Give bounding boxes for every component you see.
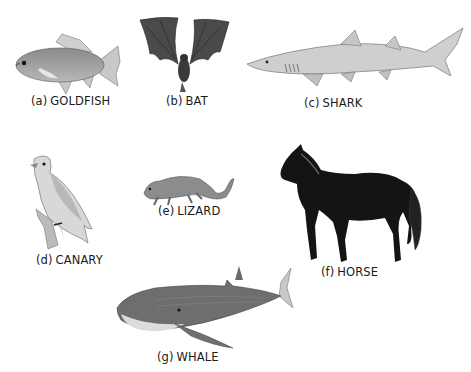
panel-lizard: (e)LIZARD bbox=[140, 165, 240, 225]
label-lizard: (e)LIZARD bbox=[158, 204, 220, 218]
label-goldfish: (a)GOLDFISH bbox=[31, 94, 110, 108]
panel-bat: (b)BAT bbox=[130, 0, 240, 110]
panel-whale: (g)WHALE bbox=[115, 250, 295, 365]
panel-canary: (d)CANARY bbox=[0, 145, 110, 260]
panel-shark: (c)SHARK bbox=[245, 0, 471, 115]
label-canary: (d)CANARY bbox=[36, 253, 103, 267]
canary-icon bbox=[0, 145, 110, 260]
whale-icon bbox=[115, 250, 295, 365]
horse-icon bbox=[275, 140, 455, 285]
label-shark: (c)SHARK bbox=[304, 96, 362, 110]
label-horse: (f)HORSE bbox=[321, 265, 378, 279]
panel-horse: (f)HORSE bbox=[275, 140, 455, 285]
label-whale: (g)WHALE bbox=[157, 350, 219, 364]
label-bat: (b)BAT bbox=[166, 94, 208, 108]
panel-goldfish: (a)GOLDFISH bbox=[0, 0, 130, 110]
